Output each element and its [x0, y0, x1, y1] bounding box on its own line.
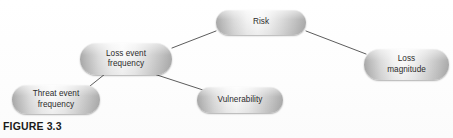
node-loss-magnitude-label: Loss magnitude — [383, 54, 430, 75]
node-threat-event-frequency: Threat event frequency — [12, 85, 100, 114]
node-risk: Risk — [216, 10, 306, 35]
edge-risk-to-loss-event-frequency — [172, 31, 216, 48]
node-vulnerability: Vulnerability — [197, 87, 283, 113]
node-loss-magnitude: Loss magnitude — [364, 49, 449, 80]
node-vulnerability-label: Vulnerability — [214, 95, 267, 105]
edge-loss-event-frequency-to-threat-event-frequency — [90, 74, 105, 86]
figure-container: Risk Loss event frequency Loss magnitude… — [0, 0, 453, 138]
node-threat-event-frequency-label: Threat event frequency — [29, 89, 84, 110]
edge-loss-event-frequency-to-vulnerability — [154, 74, 203, 90]
edge-risk-to-loss-magnitude — [306, 31, 366, 54]
node-risk-label: Risk — [249, 17, 273, 27]
figure-caption: FIGURE 3.3 — [3, 120, 62, 132]
node-loss-event-frequency: Loss event frequency — [80, 43, 172, 75]
node-loss-event-frequency-label: Loss event frequency — [102, 49, 150, 70]
